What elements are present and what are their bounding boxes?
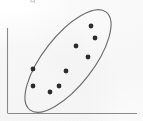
data-point xyxy=(31,84,36,89)
scatter-plot-svg xyxy=(0,0,143,121)
axes-group xyxy=(8,28,138,114)
correlation-ellipse xyxy=(10,0,126,121)
data-point xyxy=(86,55,91,60)
data-point xyxy=(48,90,53,95)
data-point xyxy=(64,69,69,74)
data-point xyxy=(89,24,94,29)
ellipse-group xyxy=(10,0,126,121)
figure-container: g xyxy=(0,0,143,121)
data-points-group xyxy=(31,24,98,95)
data-point xyxy=(31,67,36,72)
data-point xyxy=(57,84,62,89)
data-point xyxy=(93,36,98,41)
data-point xyxy=(74,44,79,49)
